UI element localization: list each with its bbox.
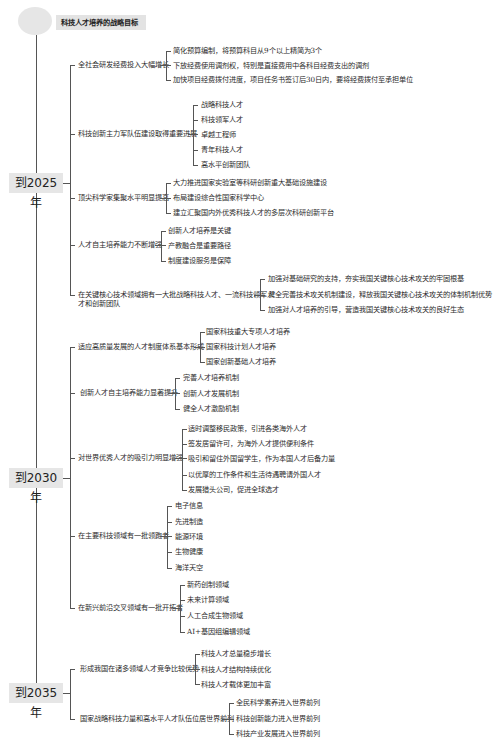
connector bbox=[167, 522, 172, 523]
connector bbox=[200, 362, 205, 363]
connector bbox=[195, 669, 200, 670]
connector bbox=[182, 475, 187, 476]
year-node-2035: 到2035年 bbox=[9, 683, 63, 703]
leaf-node: 未来计算领域 bbox=[187, 595, 229, 604]
leaf-node: 人工合成生物领域 bbox=[187, 611, 243, 620]
connector bbox=[166, 198, 171, 199]
connector bbox=[160, 536, 167, 537]
main-spine bbox=[36, 35, 37, 693]
connector bbox=[167, 506, 172, 507]
leaf-node: 下放经费使用调剂权，特别是直接费用中各科目经费支出的调剂 bbox=[173, 61, 369, 70]
connector bbox=[229, 703, 234, 704]
goal-node: 顶尖科学家集聚水平明显提高 bbox=[78, 193, 169, 202]
leaf-node: 完善人才培养机制 bbox=[183, 373, 239, 382]
leaf-node: 国家创新基础人才培养 bbox=[206, 357, 276, 366]
bracket bbox=[161, 231, 162, 261]
goal-node: 在关键核心技术领域拥有一大批战略科技人才、一流科技领军人 bbox=[78, 290, 274, 299]
leaf-node: 青年科技人才 bbox=[201, 145, 243, 154]
connector bbox=[70, 458, 75, 459]
bracket bbox=[180, 585, 181, 632]
connector bbox=[182, 429, 187, 430]
connector bbox=[70, 719, 75, 720]
leaf-node: 加快项目经费拨付进度，项目任务书签订后30日内，要将经费拨付至承担单位 bbox=[173, 75, 413, 84]
root-node-circle bbox=[18, 7, 52, 35]
leaf-node: 健全完善技术攻关机制建设，释放我国关键核心技术攻关的体制机制优势 bbox=[268, 290, 492, 299]
leaf-node: 新药创制领域 bbox=[187, 580, 229, 589]
connector bbox=[70, 134, 75, 135]
goal-node: 适应高质量发展的人才制度体系基本形成 bbox=[78, 342, 204, 351]
connector bbox=[166, 80, 171, 81]
connector bbox=[175, 409, 180, 410]
leaf-node: 电子信息 bbox=[175, 501, 203, 510]
connector bbox=[180, 616, 185, 617]
leaf-node: 创新人才发展机制 bbox=[183, 389, 239, 398]
goal-node: 在主要科技领域有一批领跑者 bbox=[78, 531, 169, 540]
leaf-node: 产教融合是重要路径 bbox=[168, 241, 231, 250]
connector bbox=[63, 693, 70, 694]
goal-node: 在新兴前沿交叉领域有一批开拓者 bbox=[78, 603, 183, 612]
leaf-node: 简化预算编制，将预算科目从9个以上精简为3个 bbox=[173, 46, 322, 55]
connector bbox=[173, 608, 180, 609]
connector bbox=[195, 684, 200, 685]
connector bbox=[70, 536, 75, 537]
leaf-node: 健全人才激励机制 bbox=[183, 404, 239, 413]
connector bbox=[166, 51, 171, 52]
leaf-node: 科技领军人才 bbox=[201, 115, 243, 124]
connector bbox=[182, 458, 187, 459]
branch-2030 bbox=[70, 347, 71, 608]
connector bbox=[167, 568, 172, 569]
connector bbox=[166, 213, 171, 214]
connector bbox=[193, 134, 198, 135]
year-node-2030: 到2030年 bbox=[9, 468, 63, 488]
year-node-2025: 到2025年 bbox=[9, 173, 63, 193]
goal-node: 对世界优秀人才的吸引力明显增强 bbox=[78, 453, 183, 462]
connector bbox=[180, 600, 185, 601]
leaf-node: 创新人才培养是关键 bbox=[168, 226, 231, 235]
root-node: 科技人才培养的战略目标 bbox=[56, 15, 146, 30]
connector bbox=[166, 65, 171, 66]
connector bbox=[200, 332, 205, 333]
leaf-node: 科技产业发展进入世界前列 bbox=[236, 729, 320, 738]
leaf-node: 生物健康 bbox=[175, 547, 203, 556]
leaf-node: 大力推进国家实验室等科研创新重大基础设施建设 bbox=[173, 178, 327, 187]
connector bbox=[175, 393, 180, 394]
leaf-node: 加强对人才培养的引导，营造我国关键核心技术攻关的良好生态 bbox=[268, 305, 464, 314]
connector bbox=[70, 295, 75, 296]
leaf-node: 战略科技人才 bbox=[201, 100, 243, 109]
connector bbox=[193, 120, 198, 121]
connector bbox=[167, 536, 172, 537]
leaf-node: 海洋天空 bbox=[175, 563, 203, 572]
leaf-node: 适时调整移民政策，引进各类海外人才 bbox=[188, 424, 307, 433]
connector bbox=[180, 632, 185, 633]
leaf-node: 建立汇聚国内外优秀科技人才的多层次科研创新平台 bbox=[173, 208, 334, 217]
branch-2035 bbox=[70, 669, 71, 719]
connector bbox=[180, 585, 185, 586]
leaf-node: 高水平创新团队 bbox=[201, 160, 250, 169]
connector bbox=[200, 347, 205, 348]
connector bbox=[70, 669, 75, 670]
connector bbox=[70, 65, 75, 66]
connector bbox=[229, 734, 234, 735]
connector bbox=[182, 444, 187, 445]
leaf-node: 国家科技计划人才培养 bbox=[206, 342, 276, 351]
connector bbox=[193, 165, 198, 166]
leaf-node: 科技创新能力进入世界前列 bbox=[236, 714, 320, 723]
bracket bbox=[193, 105, 194, 165]
connector bbox=[175, 458, 182, 459]
connector bbox=[70, 608, 75, 609]
connector bbox=[175, 378, 180, 379]
leaf-node: 能源环境 bbox=[175, 532, 203, 541]
leaf-node: 科技人才结构持续优化 bbox=[201, 665, 271, 674]
bracket bbox=[167, 506, 168, 568]
leaf-node: AI+基因组编辑领域 bbox=[187, 627, 250, 636]
goal-node: 人才自主培养能力不断增强 bbox=[78, 240, 162, 249]
connector bbox=[260, 310, 265, 311]
connector bbox=[195, 654, 200, 655]
goal-node: 全社会研发经费投入大幅增长 bbox=[78, 60, 169, 69]
leaf-node: 布局建设综合性国家科学中心 bbox=[173, 193, 264, 202]
connector bbox=[222, 719, 229, 720]
connector bbox=[63, 478, 70, 479]
branch-2025 bbox=[70, 65, 71, 295]
connector bbox=[193, 105, 198, 106]
connector bbox=[70, 245, 75, 246]
